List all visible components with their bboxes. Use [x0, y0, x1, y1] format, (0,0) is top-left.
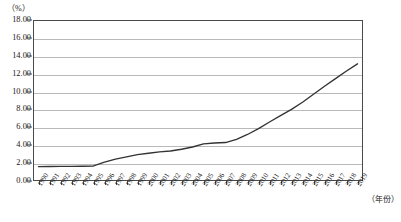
- series-line-layer: [0, 0, 401, 222]
- line-chart: （%） 0.002.004.006.008.0010.0012.0014.001…: [0, 0, 401, 222]
- series-line: [39, 64, 358, 167]
- x-axis-unit-label: （年份）: [367, 193, 399, 204]
